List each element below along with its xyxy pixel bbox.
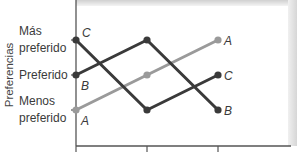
data-point-b (214, 106, 221, 113)
series-label: B (81, 79, 89, 93)
y-axis-label: Preferencias (3, 42, 15, 107)
y-tick-label: preferido (19, 41, 67, 55)
preference-chart: Preferencias MáspreferidoPreferidoMenosp… (0, 0, 297, 156)
y-tick-label: preferido (19, 111, 67, 125)
y-tick-label: Preferido (19, 68, 68, 82)
data-point-c (143, 106, 150, 113)
data-point-b (143, 36, 150, 43)
series-label: A (223, 34, 232, 48)
data-point-b (72, 71, 79, 78)
data-point-a (214, 36, 221, 43)
annotations: CBAACB (80, 26, 233, 128)
series-label: B (224, 104, 232, 118)
chart-frame: Preferencias MáspreferidoPreferidoMenosp… (0, 0, 297, 156)
series-label: C (224, 69, 233, 83)
data-point-a (143, 71, 150, 78)
series-label: C (82, 26, 91, 40)
series-label: A (80, 114, 89, 128)
data-point-c (214, 71, 221, 78)
y-tick-label: Más (19, 24, 42, 38)
y-tick-labels: MáspreferidoPreferidoMenospreferido (19, 24, 76, 125)
data-point-a (72, 106, 79, 113)
x-ticks (76, 146, 218, 152)
data-point-c (72, 36, 79, 43)
y-tick-label: Menos (19, 94, 55, 108)
